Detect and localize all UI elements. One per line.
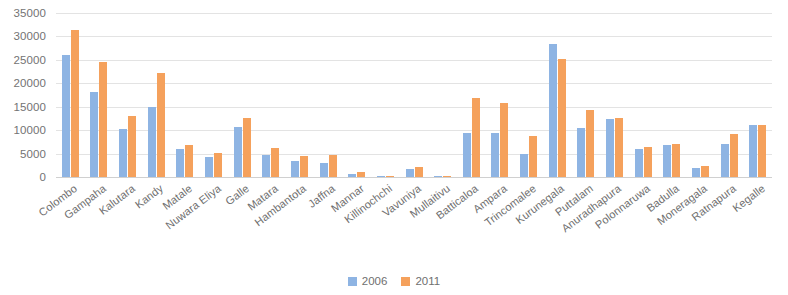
bar-2011[interactable] <box>558 59 566 177</box>
bar-2006[interactable] <box>205 157 213 177</box>
bar-group <box>486 13 515 177</box>
x-axis-labels: ColomboGampahaKalutaraKandyMataleNuwara … <box>56 180 772 260</box>
bar-2011[interactable] <box>472 98 480 177</box>
y-tick-label: 0 <box>40 171 47 183</box>
bar-group <box>657 13 686 177</box>
y-axis: 05000100001500020000250003000035000 <box>0 0 50 190</box>
bar-group <box>85 13 114 177</box>
bar-group <box>715 13 744 177</box>
bar-2006[interactable] <box>692 168 700 177</box>
bar-2006[interactable] <box>377 176 385 177</box>
bar-2011[interactable] <box>672 144 680 177</box>
bar-2006[interactable] <box>434 176 442 177</box>
bar-2011[interactable] <box>357 172 365 177</box>
legend-swatch-icon <box>348 277 357 286</box>
bar-group <box>514 13 543 177</box>
bar-group <box>743 13 772 177</box>
bar-2011[interactable] <box>443 176 451 177</box>
bar-2006[interactable] <box>291 161 299 177</box>
bar-2006[interactable] <box>520 154 528 177</box>
bar-2011[interactable] <box>71 30 79 177</box>
bar-group <box>342 13 371 177</box>
bar-2006[interactable] <box>348 174 356 177</box>
axis-baseline <box>56 177 772 178</box>
bar-2006[interactable] <box>635 149 643 177</box>
bar-2011[interactable] <box>386 176 394 177</box>
bar-group <box>142 13 171 177</box>
bar-2011[interactable] <box>185 145 193 177</box>
bar-2011[interactable] <box>300 156 308 177</box>
x-axis-label: Kandy <box>133 182 166 211</box>
bar-2011[interactable] <box>529 136 537 177</box>
bar-group <box>572 13 601 177</box>
y-tick-label: 30000 <box>14 30 46 42</box>
bar-2011[interactable] <box>586 110 594 177</box>
bar-group <box>256 13 285 177</box>
legend-swatch-icon <box>401 277 410 286</box>
bar-2006[interactable] <box>663 145 671 177</box>
bar-2006[interactable] <box>262 155 270 177</box>
bar-2006[interactable] <box>749 125 757 177</box>
bar-group <box>56 13 85 177</box>
legend-label: 2011 <box>415 275 440 287</box>
bar-group <box>400 13 429 177</box>
bar-2006[interactable] <box>320 163 328 177</box>
chart-legend: 20062011 <box>0 275 788 287</box>
bar-2011[interactable] <box>214 153 222 177</box>
bar-2006[interactable] <box>62 55 70 177</box>
bar-2011[interactable] <box>243 118 251 177</box>
bar-2006[interactable] <box>176 149 184 177</box>
bar-2011[interactable] <box>329 155 337 177</box>
bar-group <box>171 13 200 177</box>
bar-2006[interactable] <box>119 129 127 177</box>
bar-group <box>457 13 486 177</box>
bar-group <box>371 13 400 177</box>
bar-2011[interactable] <box>730 134 738 177</box>
bar-2011[interactable] <box>500 103 508 177</box>
bar-group <box>113 13 142 177</box>
bar-2006[interactable] <box>463 133 471 177</box>
bar-2006[interactable] <box>549 44 557 177</box>
bar-2006[interactable] <box>577 128 585 177</box>
y-tick-label: 20000 <box>14 77 46 89</box>
bar-2006[interactable] <box>148 107 156 177</box>
bar-2011[interactable] <box>128 116 136 177</box>
legend-item[interactable]: 2011 <box>401 275 440 287</box>
bar-2011[interactable] <box>99 62 107 177</box>
bar-group <box>199 13 228 177</box>
bar-group <box>285 13 314 177</box>
bar-2011[interactable] <box>271 148 279 177</box>
bar-2011[interactable] <box>758 125 766 177</box>
bar-2006[interactable] <box>721 144 729 177</box>
y-tick-label: 15000 <box>14 101 46 113</box>
bar-2011[interactable] <box>701 166 709 177</box>
bar-group <box>686 13 715 177</box>
bar-group <box>314 13 343 177</box>
legend-item[interactable]: 2006 <box>348 275 388 287</box>
bar-2006[interactable] <box>234 127 242 177</box>
legend-label: 2006 <box>362 275 388 287</box>
bar-2011[interactable] <box>644 147 652 177</box>
bar-2006[interactable] <box>406 169 414 177</box>
bar-2011[interactable] <box>157 73 165 177</box>
bar-group <box>428 13 457 177</box>
y-tick-label: 35000 <box>14 7 46 19</box>
bar-2006[interactable] <box>606 119 614 177</box>
bar-groups <box>56 13 772 177</box>
y-tick-label: 5000 <box>20 148 46 160</box>
bar-group <box>629 13 658 177</box>
bar-2011[interactable] <box>615 118 623 178</box>
bar-2006[interactable] <box>90 92 98 177</box>
y-tick-label: 25000 <box>14 54 46 66</box>
y-tick-label: 10000 <box>14 124 46 136</box>
bar-chart: 05000100001500020000250003000035000 Colo… <box>0 0 788 295</box>
bar-group <box>228 13 257 177</box>
bar-group <box>600 13 629 177</box>
bar-2006[interactable] <box>491 133 499 177</box>
bar-group <box>543 13 572 177</box>
bar-2011[interactable] <box>415 167 423 177</box>
plot-area <box>56 13 772 177</box>
